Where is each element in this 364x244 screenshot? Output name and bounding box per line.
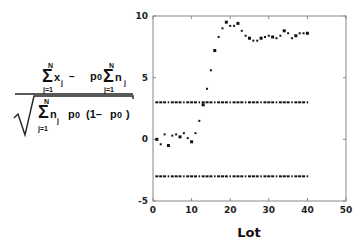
lcl-marker <box>236 175 239 177</box>
ucl-marker <box>287 101 290 103</box>
chart-svg: 01020304050-50510 Lot <box>0 0 364 244</box>
data-point <box>276 37 278 39</box>
data-point <box>241 30 243 32</box>
data-point <box>252 40 254 42</box>
lcl-marker <box>279 175 282 177</box>
ucl-marker <box>263 101 266 103</box>
lcl-marker <box>248 175 251 177</box>
data-point <box>306 32 309 35</box>
lcl-marker <box>159 175 162 177</box>
data-point <box>245 35 247 37</box>
data-point <box>187 137 189 139</box>
lcl-marker <box>186 175 189 177</box>
x-axis-label: Lot <box>237 225 260 240</box>
data-point <box>256 40 258 42</box>
ucl-marker <box>298 101 301 103</box>
lcl-marker <box>267 175 270 177</box>
y-tick-label: 0 <box>142 134 148 144</box>
plot-frame <box>153 16 346 201</box>
data-point <box>221 27 223 29</box>
data-point <box>171 135 173 137</box>
ucl-marker <box>183 101 185 103</box>
ucl-marker <box>190 101 193 103</box>
ucl-marker <box>271 101 274 103</box>
lcl-marker <box>155 175 158 177</box>
data-point <box>294 34 297 37</box>
data-point <box>164 133 166 135</box>
ucl-marker <box>171 101 174 103</box>
lcl-marker <box>256 175 259 177</box>
data-point <box>225 21 228 24</box>
lcl-marker <box>194 175 197 177</box>
ucl-marker <box>233 101 236 103</box>
data-point <box>206 88 208 90</box>
ucl-marker <box>206 101 209 103</box>
lcl-marker <box>252 175 255 177</box>
lcl-marker <box>240 175 243 177</box>
lcl-marker <box>271 175 274 177</box>
ucl-marker <box>175 101 178 103</box>
axes <box>153 16 346 201</box>
data-point <box>287 32 289 34</box>
data-point <box>233 25 235 27</box>
lcl-marker <box>199 175 201 177</box>
data-point <box>268 35 270 37</box>
lcl-marker <box>233 175 236 177</box>
ucl-marker <box>302 101 305 103</box>
lcl-marker <box>206 175 209 177</box>
x-tick-label: 30 <box>263 205 276 215</box>
ucl-marker <box>279 101 282 103</box>
data-points <box>155 21 309 178</box>
ucl-marker <box>260 101 262 103</box>
data-point <box>194 132 196 134</box>
data-point <box>218 36 220 38</box>
ucl-marker <box>214 101 216 103</box>
lcl-marker <box>287 175 290 177</box>
data-point <box>198 120 200 122</box>
data-point <box>179 135 182 138</box>
data-point <box>303 32 305 34</box>
data-point <box>190 140 193 143</box>
lcl-marker <box>245 175 247 177</box>
ucl-marker <box>186 101 189 103</box>
lcl-marker <box>260 175 262 177</box>
lcl-marker <box>298 175 301 177</box>
ucl-marker <box>202 101 205 103</box>
lcl-marker <box>163 175 166 177</box>
lcl-marker <box>168 175 170 177</box>
data-point <box>291 37 293 39</box>
ucl-marker <box>194 101 197 103</box>
ucl-marker <box>283 101 286 103</box>
data-point <box>264 36 266 38</box>
x-tick-label: 0 <box>150 205 156 215</box>
ucl-marker <box>159 101 162 103</box>
ucl-marker <box>217 101 220 103</box>
x-tick-label: 50 <box>340 205 353 215</box>
lcl-marker <box>175 175 178 177</box>
data-point <box>167 144 170 147</box>
data-point <box>210 69 212 71</box>
tick-labels: 01020304050-50510 <box>135 11 352 215</box>
x-tick-label: 10 <box>185 205 198 215</box>
lcl-marker <box>302 175 305 177</box>
data-point <box>183 132 185 134</box>
lcl-marker <box>217 175 220 177</box>
lcl-marker <box>229 175 231 177</box>
ucl-marker <box>168 101 170 103</box>
data-point <box>299 32 301 34</box>
data-point <box>155 138 158 141</box>
lcl-marker <box>276 175 278 177</box>
x-tick-label: 20 <box>224 205 237 215</box>
data-point <box>271 35 274 38</box>
y-tick-label: -5 <box>138 196 148 206</box>
ucl-marker <box>221 101 224 103</box>
ucl-marker <box>179 101 182 103</box>
ucl-marker <box>294 101 297 103</box>
ucl-marker <box>248 101 251 103</box>
ucl-marker <box>229 101 231 103</box>
x-tick-label: 40 <box>301 205 314 215</box>
lcl-marker <box>209 175 212 177</box>
lcl-marker <box>171 175 174 177</box>
lcl-marker <box>225 175 228 177</box>
data-point <box>202 103 205 106</box>
